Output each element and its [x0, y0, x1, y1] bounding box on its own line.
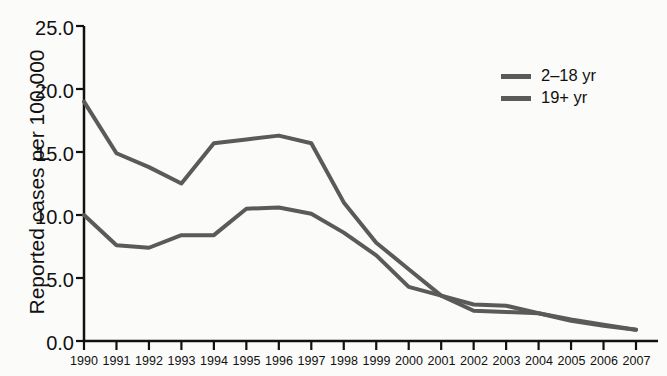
chart-figure: Reported cases per 100,000 0.0 5.0 10.0 … [0, 0, 667, 376]
plot-area [0, 0, 667, 376]
